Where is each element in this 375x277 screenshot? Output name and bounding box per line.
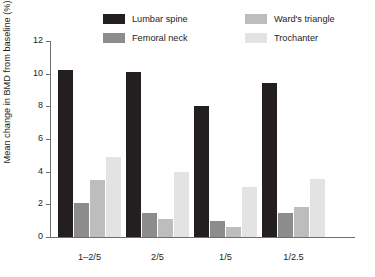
bar bbox=[310, 179, 325, 237]
y-axis-tick-label: 0 bbox=[38, 231, 43, 242]
legend-swatch-wards-triangle bbox=[245, 14, 267, 24]
legend-label-lumbar-spine: Lumbar spine bbox=[132, 14, 188, 24]
bar bbox=[142, 213, 157, 238]
y-axis-title: Mean change in BMD from baseline (%) bbox=[0, 0, 14, 180]
y-axis-tick-label: 12 bbox=[33, 35, 43, 46]
y-axis-tick: 10 bbox=[46, 74, 50, 75]
bar bbox=[262, 83, 277, 237]
bar bbox=[194, 106, 209, 237]
y-axis-tick-label: 8 bbox=[38, 100, 43, 111]
y-axis-tick-label: 6 bbox=[38, 133, 43, 144]
bar bbox=[158, 219, 173, 237]
x-axis-line bbox=[50, 237, 355, 238]
plot-area: 024681012 1–2/52/51/51/2.5 bbox=[50, 41, 355, 237]
legend-item-lumbar-spine: Lumbar spine bbox=[103, 12, 188, 25]
y-axis-tick-label: 2 bbox=[38, 198, 43, 209]
y-axis-tick: 2 bbox=[46, 204, 50, 205]
y-axis-tick: 6 bbox=[46, 139, 50, 140]
x-axis-tick-label: 1/2.5 bbox=[252, 252, 335, 263]
y-axis-tick: 0 bbox=[46, 237, 50, 238]
y-axis-tick-label: 4 bbox=[38, 166, 43, 177]
legend-label-wards-triangle: Ward's triangle bbox=[274, 14, 335, 24]
bar-group bbox=[126, 41, 189, 237]
bmd-bar-chart: Lumbar spine Femoral neck Ward's triangl… bbox=[0, 0, 375, 277]
bar bbox=[174, 172, 189, 237]
bar bbox=[106, 157, 121, 237]
legend-swatch-lumbar-spine bbox=[103, 14, 125, 24]
legend-item-wards-triangle: Ward's triangle bbox=[245, 12, 335, 25]
bar bbox=[210, 221, 225, 237]
bar bbox=[58, 70, 73, 237]
bar bbox=[74, 203, 89, 237]
bar-group bbox=[262, 41, 325, 237]
bar-group bbox=[194, 41, 257, 237]
bar-group bbox=[58, 41, 121, 237]
bar bbox=[294, 207, 309, 237]
y-axis-tick: 4 bbox=[46, 172, 50, 173]
y-axis-tick: 8 bbox=[46, 106, 50, 107]
bar bbox=[278, 213, 293, 237]
bar bbox=[226, 227, 241, 237]
bar bbox=[90, 180, 105, 237]
y-axis-tick-label: 10 bbox=[33, 68, 43, 79]
y-axis-tick: 12 bbox=[46, 41, 50, 42]
bar bbox=[126, 72, 141, 237]
y-axis-line bbox=[50, 41, 51, 237]
bar bbox=[242, 187, 257, 237]
